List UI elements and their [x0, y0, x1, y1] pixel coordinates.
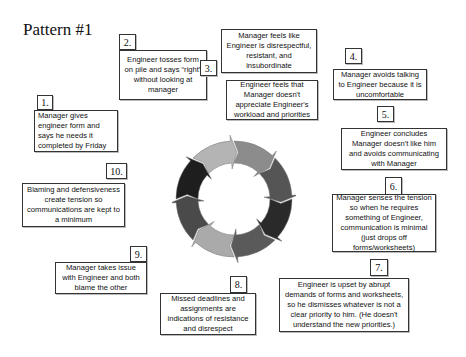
step-1-number: 1. [37, 95, 53, 110]
step-1-text: Manager gives engineer form and says he … [38, 111, 114, 151]
step-8-number: 8. [230, 276, 247, 293]
step-1-box: Manager gives engineer form and says he … [34, 110, 118, 152]
step-3b-text: Engineer feels that Manager doesn't appr… [230, 80, 314, 120]
step-5-number: 5. [377, 106, 394, 122]
step-8-box: Missed deadlines and assignments are ind… [160, 293, 256, 335]
step-3a-box: Manager feels like Engineer is disrespec… [221, 29, 317, 73]
step-7-text: Engineer is upset by abrupt demands of f… [283, 280, 405, 330]
step-4-number: 4. [345, 48, 362, 64]
step-7-number: 7. [370, 259, 388, 276]
step-8-text: Missed deadlines and assignments are ind… [164, 294, 252, 334]
step-10-text: Blaming and defensiveness create tension… [26, 185, 121, 225]
step-9-box: Manager takes issue with Engineer and bo… [55, 262, 147, 294]
step-6-box: Manager senses the tension so when he re… [332, 194, 436, 252]
step-4-box: Manager avoids talking to Engineer becau… [333, 69, 427, 100]
step-9-number: 9. [130, 246, 147, 262]
step-7-box: Engineer is upset by abrupt demands of f… [279, 278, 409, 332]
step-3b-box: Engineer feels that Manager doesn't appr… [226, 80, 318, 120]
step-5-box: Engineer concludes Manager doesn't like … [341, 128, 447, 170]
cycle-ring-graphic [172, 134, 296, 264]
page-title: Pattern #1 [23, 20, 92, 40]
step-5-text: Engineer concludes Manager doesn't like … [345, 129, 443, 169]
step-3a-text: Manager feels like Engineer is disrespec… [225, 31, 313, 71]
step-2-text: Engineer tosses form on pile and says “r… [123, 55, 203, 95]
step-2-number: 2. [119, 34, 136, 50]
step-6-text: Manager senses the tension so when he re… [336, 193, 432, 253]
step-10-box: Blaming and defensiveness create tension… [22, 183, 125, 227]
step-2-box: Engineer tosses form on pile and says “r… [119, 50, 207, 100]
step-10-number: 10. [106, 163, 127, 179]
step-9-text: Manager takes issue with Engineer and bo… [59, 263, 143, 293]
step-4-text: Manager avoids talking to Engineer becau… [337, 70, 423, 100]
step-3-number: 3. [200, 60, 217, 76]
